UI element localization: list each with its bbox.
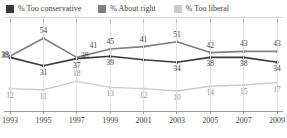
- axis-tick: [10, 19, 11, 23]
- axis-tick: [210, 19, 211, 23]
- data-point-label: 37: [73, 62, 81, 70]
- data-point-label: 10: [173, 94, 181, 102]
- x-axis-tick-label: 1997: [69, 116, 85, 125]
- data-point-label: 31: [40, 69, 48, 77]
- x-axis-labels: 199319951997199920012003200520072009: [0, 116, 287, 136]
- plot-area: 3831373934383834395438454151424343121118…: [0, 19, 287, 111]
- data-point-label: 34: [173, 65, 181, 73]
- x-axis-tick-label: 1999: [102, 116, 118, 125]
- data-point-label: 41: [140, 36, 148, 44]
- data-point-label: 38: [207, 60, 215, 68]
- data-point-label: 43: [273, 40, 281, 48]
- axis-tick: [243, 19, 244, 23]
- data-point-label: 12: [6, 92, 14, 100]
- data-point-label: 12: [140, 92, 148, 100]
- axis-tick: [76, 111, 77, 114]
- data-point-label: 38: [81, 52, 89, 60]
- axis-tick: [110, 111, 111, 114]
- data-point-label: 41: [90, 42, 98, 50]
- legend-label: % Too conservative: [18, 5, 81, 13]
- axis-tick: [176, 19, 177, 23]
- axis-tick: [277, 111, 278, 114]
- data-point-label: 11: [40, 93, 47, 101]
- data-point-label: 45: [106, 38, 114, 46]
- axis-tick: [76, 19, 77, 23]
- x-axis-tick-label: 2001: [136, 116, 152, 125]
- legend-label: % Too liberal: [186, 5, 229, 13]
- x-axis-tick-label: 2007: [236, 116, 252, 125]
- data-point-label: 38: [240, 60, 248, 68]
- axis-tick: [43, 19, 44, 23]
- data-point-label: 43: [240, 40, 248, 48]
- data-point-label: 17: [273, 86, 281, 94]
- axis-tick: [277, 19, 278, 23]
- data-point-label: 39: [1, 51, 9, 59]
- x-axis-tick-label: 1993: [2, 116, 18, 125]
- axis-tick: [143, 111, 144, 114]
- square-swatch-icon: [98, 5, 106, 13]
- data-point-label: 15: [240, 88, 248, 96]
- legend-item-about-right: % About right: [98, 5, 155, 13]
- data-point-label: 13: [106, 90, 114, 98]
- data-point-label: 34: [273, 65, 281, 73]
- data-point-label: 54: [40, 27, 48, 35]
- axis-tick: [110, 19, 111, 23]
- chart-legend: % Too conservative % About right % Too l…: [0, 0, 287, 18]
- axis-tick: [210, 111, 211, 114]
- x-axis-tick-label: 2005: [202, 116, 218, 125]
- x-axis-tick-label: 1995: [35, 116, 51, 125]
- data-point-label: 39: [106, 59, 114, 67]
- legend-label: % About right: [110, 5, 155, 13]
- legend-divider: [4, 17, 283, 18]
- chart-container: % Too conservative % About right % Too l…: [0, 0, 287, 138]
- data-point-label: 51: [173, 31, 181, 39]
- axis-tick: [243, 111, 244, 114]
- axis-tick: [43, 111, 44, 114]
- square-swatch-icon: [6, 5, 14, 13]
- axis-tick: [143, 19, 144, 23]
- axis-tick: [10, 111, 11, 114]
- x-axis-tick-label: 2003: [169, 116, 185, 125]
- data-point-label: 14: [207, 89, 215, 97]
- legend-item-too-conservative: % Too conservative: [6, 5, 81, 13]
- square-swatch-icon: [174, 5, 182, 13]
- legend-item-too-liberal: % Too liberal: [174, 5, 229, 13]
- data-point-label: 18: [73, 70, 81, 78]
- x-axis-tick-label: 2009: [269, 116, 285, 125]
- data-point-label: 42: [207, 42, 215, 50]
- axis-tick: [176, 111, 177, 114]
